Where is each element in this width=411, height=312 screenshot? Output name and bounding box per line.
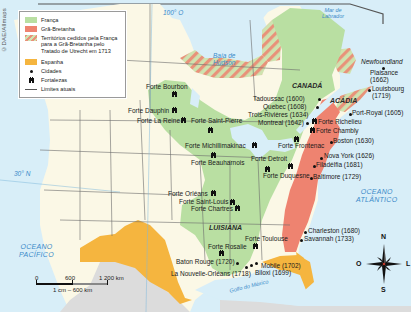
boundary-line-icon: [25, 86, 37, 92]
city-dot-icon: [245, 266, 248, 269]
city-label: Plaisance (1662): [370, 70, 398, 83]
longitude-label: 100° O: [163, 9, 183, 16]
latitude-label: 30° N: [14, 170, 30, 177]
fort-icon: [310, 127, 315, 133]
fort-icon: [252, 142, 257, 148]
map-legend: França Grã-Bretanha Territórios cedidos …: [19, 11, 126, 98]
fort-label: Forte Richelieu: [318, 119, 362, 126]
france-swatch: [25, 17, 37, 23]
city-label: Biloxi (1699): [255, 270, 291, 277]
city-dot-icon: [236, 262, 239, 265]
fort-icon: [288, 163, 293, 169]
city-dot-icon: [316, 106, 319, 109]
scale-ratio: 1 cm – 600 km: [53, 287, 92, 293]
fort-label: Forte Toulouse: [245, 236, 288, 243]
legend-label: Territórios cedidos pela França para a G…: [41, 35, 119, 54]
compass-west: O: [356, 260, 361, 267]
fort-label: Forte Beauharnois: [191, 160, 244, 167]
label-baia-hudson: Baía de Hudson: [213, 52, 235, 67]
fort-icon: [211, 190, 216, 196]
fort-icon: [172, 107, 177, 113]
ceded-hatch-swatch: [25, 35, 37, 41]
fort-icon: [219, 250, 224, 256]
legend-label: Grã-Bretanha: [41, 26, 75, 32]
city-label: Trois-Rivières (1634): [248, 112, 308, 119]
city-dot-icon: [250, 264, 253, 267]
legend-label: Espanha: [41, 59, 63, 65]
fort-label: Forte Dauphin: [128, 108, 169, 115]
city-label: Charleston (1680): [308, 228, 360, 235]
city-label: La Nouvelle-Orléans (1718): [171, 271, 251, 278]
fort-icon: [312, 118, 317, 124]
great-britain-swatch: [25, 26, 37, 32]
region-acadia: ACÁDIA: [330, 97, 357, 104]
city-dot-icon: [320, 157, 323, 160]
city-dot-icon: [306, 122, 309, 125]
city-label: Tadoussac (1600): [253, 96, 305, 103]
fort-icon: [211, 152, 216, 158]
scale-segment-gray: [72, 283, 108, 285]
region-canada: CANADÁ: [292, 82, 322, 89]
fort-label: Forte Detroit: [251, 156, 287, 163]
fort-label: Forte Michillimakinac: [185, 143, 246, 150]
legend-label: Fortalezas: [41, 77, 67, 83]
city-label: Boston (1630): [333, 138, 374, 145]
compass-east: L: [406, 260, 410, 267]
fort-icon: [253, 243, 258, 249]
city-label: Louisbourg (1719): [372, 86, 404, 99]
city-label: Filadélfia (1681): [316, 162, 363, 169]
fort-label: Forte Frontenac: [278, 143, 324, 150]
city-label: Montreal (1642): [258, 120, 304, 127]
label-oceano-pacifico: OCEANO PACÍFICO: [19, 243, 54, 260]
compass-icon: [362, 242, 406, 286]
legend-item-franca: França: [25, 17, 58, 23]
legend-item-gra-bretanha: Grã-Bretanha: [25, 26, 75, 32]
compass-north: N: [381, 233, 386, 240]
legend-item-espanha: Espanha: [25, 59, 63, 65]
fort-label: Forte Bourbon: [146, 84, 188, 91]
spain-swatch: [25, 59, 37, 65]
legend-label: Cidades: [41, 68, 62, 74]
fort-label: Forte Chartres: [191, 206, 233, 213]
fort-label: Forte Saint-Pierre: [191, 118, 242, 125]
city-dot-icon: [368, 89, 371, 92]
fort-label: Forte Chambly: [316, 128, 359, 135]
region-luisiana: LUISIANA: [209, 224, 242, 231]
fort-icon: [181, 117, 186, 123]
city-label: Baltimore (1729): [313, 174, 361, 181]
city-dot-icon: [255, 262, 258, 265]
legend-label: Limites atuais: [41, 86, 75, 92]
fort-label: Forte Orléans: [168, 191, 208, 198]
fort-icon: [25, 77, 37, 83]
fort-label: Forte Duquesne: [263, 173, 310, 180]
label-oceano-atlantico: OCEANO ATLÂNTICO: [356, 188, 397, 205]
city-dot-icon: [318, 98, 321, 101]
scale-segment-black: [36, 283, 72, 285]
city-label: Baton Rouge (1720): [176, 259, 235, 266]
scale-tick-600: 600: [65, 275, 75, 281]
city-label: Port-Royal (1605): [352, 110, 403, 117]
legend-item-limites: Limites atuais: [25, 86, 75, 92]
image-credit: ©DAE/Allmaps: [1, 8, 7, 52]
legend-item-cidades: Cidades: [25, 68, 62, 74]
scale-tick-1200: 1 200 km: [99, 275, 124, 281]
compass-rose: N S O L: [362, 242, 406, 286]
fort-icon: [208, 127, 213, 133]
legend-label: França: [41, 17, 58, 23]
legend-item-fortalezas: Fortalezas: [25, 77, 67, 83]
label-mar-labrador: Mar de Labrador: [322, 7, 344, 20]
city-label: Savannah (1733): [304, 236, 354, 243]
city-label: Quebec (1608): [263, 104, 306, 111]
region-newfoundland: Newfoundland: [361, 59, 403, 66]
city-dot-icon: [304, 231, 307, 234]
city-label: Nova York (1626): [324, 153, 374, 160]
city-dot-icon: [25, 68, 37, 74]
fort-icon: [172, 91, 177, 97]
compass-south: S: [381, 286, 386, 293]
fort-label: Forte Rosalie: [208, 244, 247, 251]
city-dot-icon: [300, 239, 303, 242]
legend-item-cedidos: Territórios cedidos pela França para a G…: [25, 35, 123, 54]
fort-label: Forte La Reine: [137, 118, 180, 125]
fort-icon: [235, 205, 240, 211]
